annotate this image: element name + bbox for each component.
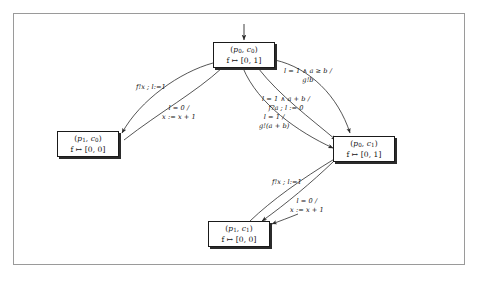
node-p1c1-state: (p1, c1) bbox=[225, 224, 253, 234]
node-p1c0-state: (p1, c0) bbox=[74, 134, 102, 144]
node-p1c1-mapping: f ↦ [0, 0] bbox=[222, 235, 257, 244]
edge-label-lower-middle-guard-line2: g!(a + b) bbox=[259, 122, 289, 131]
edge-label-lower-left-send-line1: f!x ; l:=1 bbox=[272, 178, 302, 187]
node-p1c0-mapping: f ↦ [0, 0] bbox=[71, 145, 106, 154]
edge-label-lower-left-send: f!x ; l:=1 bbox=[272, 178, 302, 187]
edge-label-lower-right-guard-line1: l = 0 / bbox=[290, 197, 324, 206]
edge-label-upper-left-send-line1: f!x ; l:=1 bbox=[136, 83, 166, 92]
edge-label-middle-right-guard-line1: l = 1 ∧ a + b / bbox=[262, 95, 310, 104]
edge-label-lower-right-guard: l = 0 / x := x + 1 bbox=[290, 197, 324, 215]
edge-label-lower-middle-guard-line1: l = 1 / bbox=[259, 113, 289, 122]
edge-label-lower-right-guard-line2: x := x + 1 bbox=[290, 206, 324, 215]
node-p1c0[interactable]: (p1, c0) f ↦ [0, 0] bbox=[57, 131, 119, 157]
node-p0c0[interactable]: (p0, c0) f ↦ [0, 1] bbox=[213, 42, 275, 68]
edge-label-lower-middle-guard: l = 1 / g!(a + b) bbox=[259, 113, 289, 131]
edge-label-upper-right-guard-line1: l = 1 ∧ a ≥ b / bbox=[284, 67, 332, 76]
edge-label-middle-right-guard-line2: f?a ; l := 0 bbox=[262, 104, 310, 113]
edge-label-middle-right-guard: l = 1 ∧ a + b / f?a ; l := 0 bbox=[262, 95, 310, 113]
edge-label-upper-left-guard-line1: l = 0 / bbox=[162, 104, 196, 113]
edge-label-upper-left-guard: l = 0 / x := x + 1 bbox=[162, 104, 196, 122]
edge-label-upper-right-guard-line2: g!b bbox=[284, 76, 332, 85]
node-p0c1-state: (p0, c1) bbox=[350, 139, 378, 149]
node-p0c1[interactable]: (p0, c1) f ↦ [0, 1] bbox=[333, 136, 395, 162]
node-p0c0-mapping: f ↦ [0, 1] bbox=[227, 56, 262, 65]
node-p0c0-state: (p0, c0) bbox=[230, 45, 258, 55]
edge-label-upper-right-guard: l = 1 ∧ a ≥ b / g!b bbox=[284, 67, 332, 85]
node-p1c1[interactable]: (p1, c1) f ↦ [0, 0] bbox=[208, 221, 270, 247]
edge-label-upper-left-guard-line2: x := x + 1 bbox=[162, 113, 196, 122]
node-p0c1-mapping: f ↦ [0, 1] bbox=[347, 150, 382, 159]
edge-label-upper-left-send: f!x ; l:=1 bbox=[136, 83, 166, 92]
diagram-canvas: (p0, c0) f ↦ [0, 1] (p1, c0) f ↦ [0, 0] … bbox=[0, 0, 479, 281]
